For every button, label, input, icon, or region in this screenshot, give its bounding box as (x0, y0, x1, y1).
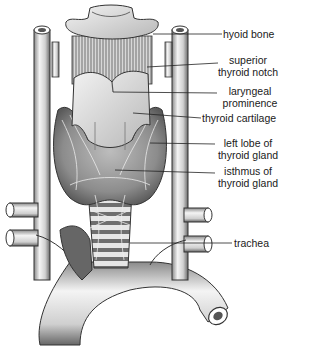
label-text: hyoid bone (223, 28, 274, 40)
aortic-arch (39, 262, 231, 345)
label-text: laryngeal (218, 85, 282, 97)
label-text: trachea (234, 237, 269, 249)
label-text: thyroid cartilage (202, 112, 276, 124)
label-superior-thyroid-notch: superior thyroid notch (214, 54, 282, 78)
label-thyroid-cartilage: thyroid cartilage (202, 112, 276, 124)
label-text: isthmus of (214, 165, 282, 177)
hyoid-bone (66, 5, 159, 39)
label-hyoid-bone: hyoid bone (223, 28, 274, 40)
label-text: prominence (218, 97, 282, 109)
label-laryngeal-prominence: laryngeal prominence (218, 85, 282, 109)
label-text: thyroid gland (214, 149, 282, 161)
label-isthmus: isthmus of thyroid gland (214, 165, 282, 189)
label-trachea: trachea (234, 237, 269, 249)
label-text: thyroid notch (214, 66, 282, 78)
label-text: superior (214, 54, 282, 66)
label-text: left lobe of (214, 137, 282, 149)
label-text: thyroid gland (214, 177, 282, 189)
label-left-lobe: left lobe of thyroid gland (214, 137, 282, 161)
